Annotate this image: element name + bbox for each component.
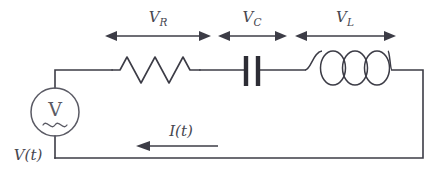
source-voltage-label: V(t) [14, 146, 43, 164]
resistor-symbol [112, 57, 200, 83]
wire-inductor-to-source-return [55, 70, 423, 158]
circuit-diagram-figure: V VR [0, 0, 447, 174]
current-direction-arrow [136, 141, 218, 151]
sine-wave-icon [43, 123, 67, 126]
voltage-source-symbol: V [47, 98, 62, 120]
capacitor-voltage-span-arrow [218, 31, 287, 41]
inductor-voltage-span-arrow [295, 31, 396, 41]
wire-source-to-resistor [55, 70, 112, 88]
current-label: I(t) [168, 122, 193, 140]
inductor-symbol [305, 51, 392, 85]
resistor-voltage-label: VR [149, 8, 168, 28]
resistor-voltage-span-arrow [105, 31, 211, 41]
circuit-canvas: V VR [0, 0, 447, 174]
inductor-voltage-label: VL [336, 8, 354, 28]
capacitor-voltage-label: VC [243, 8, 262, 28]
